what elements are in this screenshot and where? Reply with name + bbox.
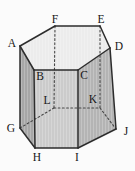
hexagonal-prism-figure: ABCDEFGHIJKL	[0, 0, 135, 171]
vertex-label-D: D	[115, 40, 123, 52]
vertex-label-F: F	[52, 13, 58, 25]
vertex-label-G: G	[7, 122, 15, 134]
vertex-label-A: A	[8, 37, 17, 49]
vertex-label-H: H	[33, 151, 41, 163]
prism-svg: ABCDEFGHIJKL	[0, 0, 135, 171]
vertex-label-E: E	[97, 13, 104, 25]
vertex-label-I: I	[75, 151, 79, 163]
vertex-label-C: C	[80, 69, 88, 81]
vertex-label-L: L	[43, 94, 50, 106]
prism-drawing: ABCDEFGHIJKL	[7, 13, 129, 163]
vertex-label-B: B	[36, 70, 44, 82]
vertex-label-K: K	[89, 93, 98, 105]
vertex-label-J: J	[124, 125, 129, 137]
edge-BH	[34, 70, 35, 148]
